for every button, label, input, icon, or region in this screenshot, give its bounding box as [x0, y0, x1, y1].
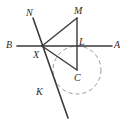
point-label-a: A [114, 40, 120, 50]
point-label-b: B [6, 40, 12, 50]
point-label-k: K [36, 87, 43, 97]
figure-canvas [0, 0, 131, 123]
geometry-figure: B A N K X L M C [0, 0, 131, 123]
point-label-l: L [79, 37, 85, 47]
point-label-c: C [74, 73, 81, 83]
point-label-x: X [33, 50, 39, 60]
segment-x-m [42, 18, 77, 46]
point-label-m: M [74, 6, 82, 16]
point-label-n: N [26, 8, 33, 18]
line-n-k [33, 18, 68, 118]
